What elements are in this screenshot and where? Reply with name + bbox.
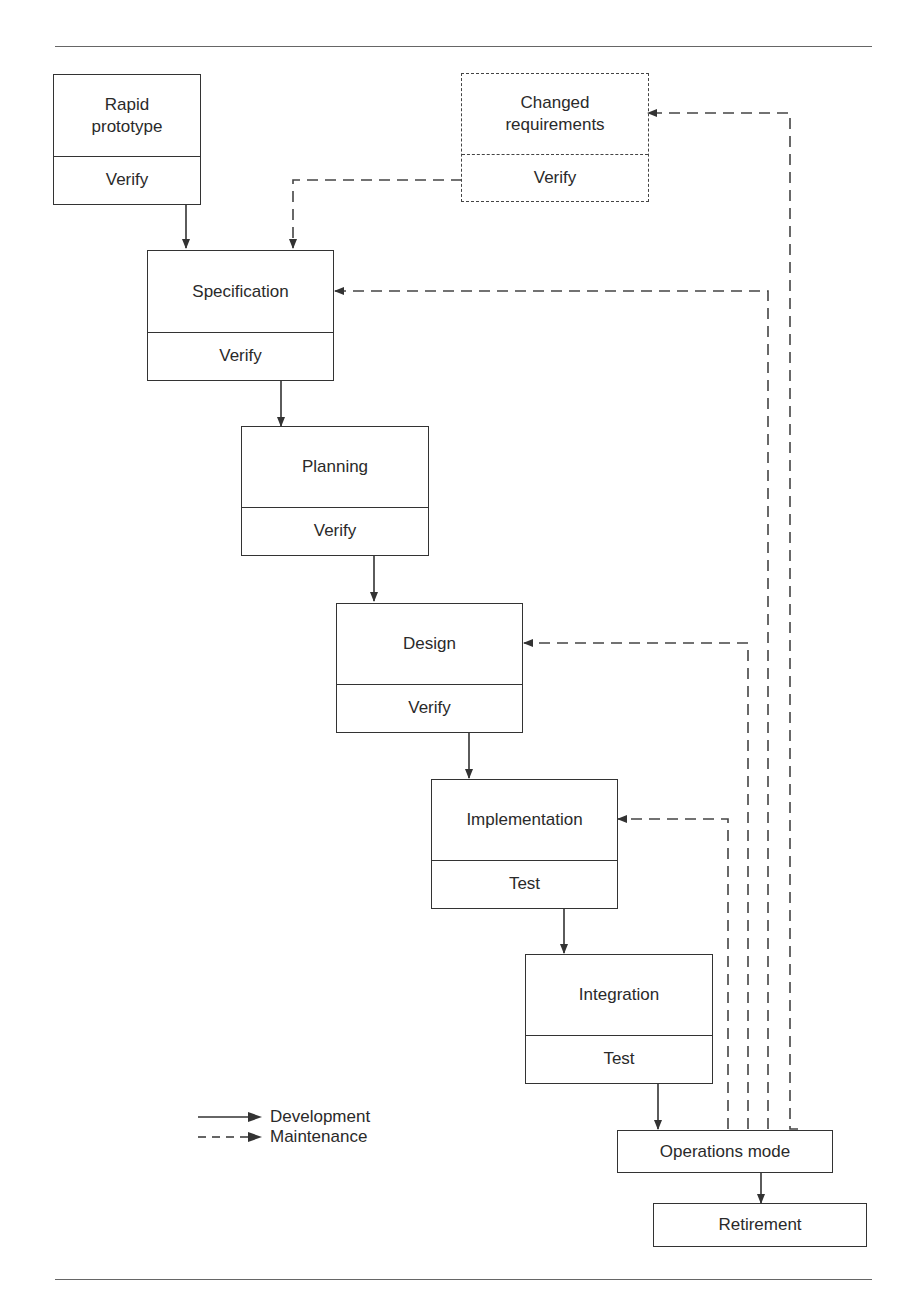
dashed-arrow-icon (198, 1131, 262, 1143)
legend: Development Maintenance (198, 1107, 370, 1147)
box-title: Planning (242, 427, 428, 508)
box-sub: Test (526, 1035, 712, 1083)
box-title: Integration (526, 955, 712, 1036)
legend-development: Development (198, 1107, 370, 1127)
rapid-prototype-label: Rapid prototype (77, 94, 177, 138)
box-title: Design (337, 604, 522, 685)
box-sub: Verify (337, 684, 522, 732)
box-design: Design Verify (336, 603, 523, 733)
box-title: Implementation (432, 780, 617, 861)
box-specification: Specification Verify (147, 250, 334, 381)
box-sub: Verify (242, 507, 428, 555)
box-sub: Test (432, 860, 617, 908)
box-sub: Verify (54, 156, 200, 204)
box-sub: Verify (462, 154, 648, 201)
box-rapid-prototype: Rapid prototype Verify (53, 74, 201, 205)
changed-requirements-label: Changed requirements (495, 92, 615, 136)
box-operations-mode: Operations mode (617, 1130, 833, 1173)
legend-development-label: Development (270, 1107, 370, 1127)
legend-maintenance-label: Maintenance (270, 1127, 367, 1147)
legend-maintenance: Maintenance (198, 1127, 370, 1147)
box-retirement: Retirement (653, 1203, 867, 1247)
box-title: Changed requirements (462, 74, 648, 155)
box-planning: Planning Verify (241, 426, 429, 556)
box-title: Specification (148, 251, 333, 333)
box-changed-requirements: Changed requirements Verify (461, 73, 649, 202)
maint-changedreq-to-spec (293, 180, 462, 248)
solid-arrow-icon (198, 1111, 262, 1123)
box-title: Rapid prototype (54, 75, 200, 157)
box-sub: Verify (148, 332, 333, 380)
box-integration: Integration Test (525, 954, 713, 1084)
box-implementation: Implementation Test (431, 779, 618, 909)
